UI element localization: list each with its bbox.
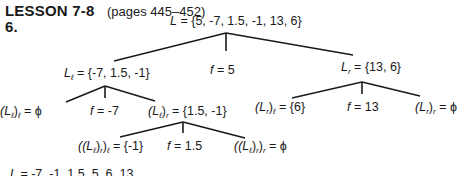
- lhs: L: [341, 60, 348, 74]
- rhs: = 13: [354, 100, 379, 114]
- rhs: = ϕ: [24, 104, 42, 118]
- node-Llr-l: ((Lℓ)r)ℓ = {-1}: [78, 139, 143, 155]
- rhs: = {-1}: [113, 139, 143, 153]
- node-Llr-r: ((Lℓ)r)r = ϕ: [234, 139, 287, 155]
- lhs: f: [167, 139, 170, 153]
- lhs: (L: [0, 104, 11, 118]
- rhs: = 1.5: [174, 139, 202, 153]
- sub2: ℓ: [273, 107, 276, 116]
- node-pivot-5: f = 5: [210, 63, 235, 77]
- lhs: f: [210, 63, 213, 77]
- root-rhs: = {5, -7, 1.5, -1, 13, 6}: [180, 14, 301, 28]
- lhs: (L: [415, 100, 426, 114]
- node-pivot-neg7: f = -7: [90, 104, 119, 118]
- rhs: = -7: [97, 104, 119, 118]
- lhs: (L: [148, 104, 159, 118]
- node-Lr-r: (Lr)r = ϕ: [415, 100, 457, 116]
- node-pivot-13: f = 13: [347, 100, 379, 114]
- rhs: = {6}: [279, 100, 305, 114]
- sub2: r: [166, 111, 169, 120]
- root-lhs: L: [170, 14, 177, 28]
- node-Ll-l: (Lℓ)ℓ = ϕ: [0, 104, 42, 120]
- node-L-left: Lℓ = {-7, 1.5, -1}: [64, 66, 150, 82]
- rhs: = {-7, 1.5, -1}: [77, 66, 150, 80]
- lhs: ((L: [234, 139, 249, 153]
- rhs: = ϕ: [269, 139, 287, 153]
- node-L-right: Lr = {13, 6}: [341, 60, 401, 76]
- rhs: = 5: [217, 63, 235, 77]
- rhs: = {13, 6}: [354, 60, 401, 74]
- sub3: ℓ: [107, 146, 110, 155]
- sub: ℓ: [71, 73, 74, 82]
- sub2: ℓ: [18, 111, 21, 120]
- node-Lr-l: (Lr)ℓ = {6}: [255, 100, 305, 116]
- result-rhs: = -7, -1, 1.5, 5, 6, 13: [20, 167, 133, 176]
- result-lhs: L: [10, 167, 17, 176]
- lhs: f: [90, 104, 93, 118]
- lhs: f: [347, 100, 350, 114]
- lhs: (L: [255, 100, 266, 114]
- lhs: ((L: [78, 139, 93, 153]
- lhs: L: [64, 66, 71, 80]
- sorted-result: L = -7, -1, 1.5, 5, 6, 13: [10, 167, 133, 176]
- node-Ll-r: (Lℓ)r = {1.5, -1}: [148, 104, 227, 120]
- rhs: = ϕ: [439, 100, 457, 114]
- rhs: = {1.5, -1}: [172, 104, 227, 118]
- sub2: r: [433, 107, 436, 116]
- node-pivot-1-5: f = 1.5: [167, 139, 202, 153]
- tree-root: L = {5, -7, 1.5, -1, 13, 6}: [170, 14, 302, 28]
- sub: r: [348, 67, 351, 76]
- sub3: r: [263, 146, 266, 155]
